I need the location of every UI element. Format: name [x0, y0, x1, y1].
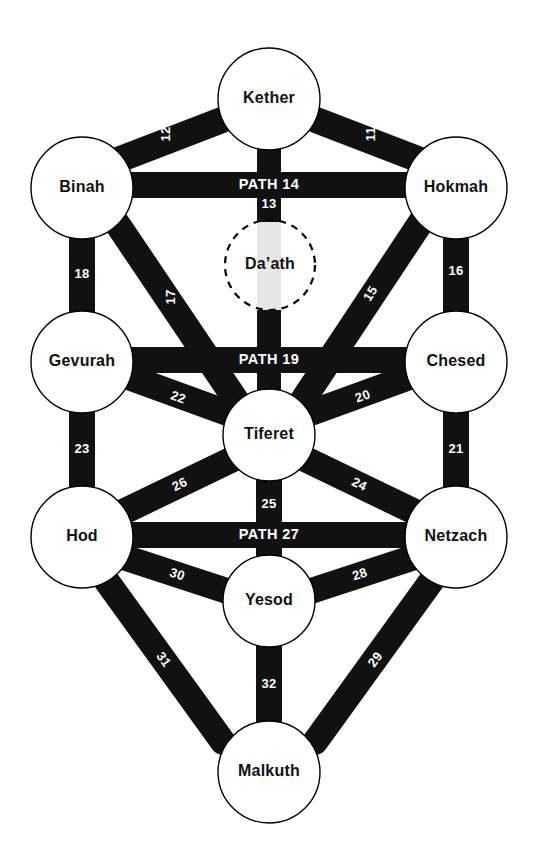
path-label-27: PATH 27	[239, 526, 299, 542]
sephirah-label-kether: Kether	[243, 89, 295, 106]
sephirah-label-daath: Da’ath	[245, 255, 295, 272]
path-label-11: 11	[363, 127, 378, 141]
path-label-16: 16	[448, 263, 463, 278]
tree-of-life-diagram: 111213PATH 1415161718PATH 19202122232425…	[0, 0, 536, 858]
path-label-14: PATH 14	[239, 176, 299, 192]
path-label-17: 17	[163, 289, 178, 304]
path-label-12: 12	[158, 126, 173, 141]
sephirah-label-binah: Binah	[59, 178, 104, 195]
path-label-25: 25	[261, 496, 276, 511]
sephirah-label-tiferet: Tiferet	[244, 425, 294, 442]
path-label-23: 23	[74, 441, 89, 456]
sephirah-label-malkuth: Malkuth	[238, 762, 300, 779]
path-label-18: 18	[74, 266, 89, 281]
path-label-32: 32	[261, 676, 276, 691]
sephirah-label-yesod: Yesod	[245, 591, 293, 608]
sephirah-label-gevurah: Gevurah	[49, 352, 115, 369]
sephirah-label-netzach: Netzach	[425, 527, 488, 544]
tree-of-life-page: { "diagram": { "title": "Tree of Life", …	[0, 0, 536, 858]
path-label-21: 21	[448, 441, 463, 456]
sephirah-label-hod: Hod	[66, 527, 98, 544]
path-label-13: 13	[261, 196, 276, 211]
path-label-19: PATH 19	[239, 351, 299, 367]
sephirah-label-hokmah: Hokmah	[424, 178, 488, 195]
sephirah-label-chesed: Chesed	[427, 352, 486, 369]
